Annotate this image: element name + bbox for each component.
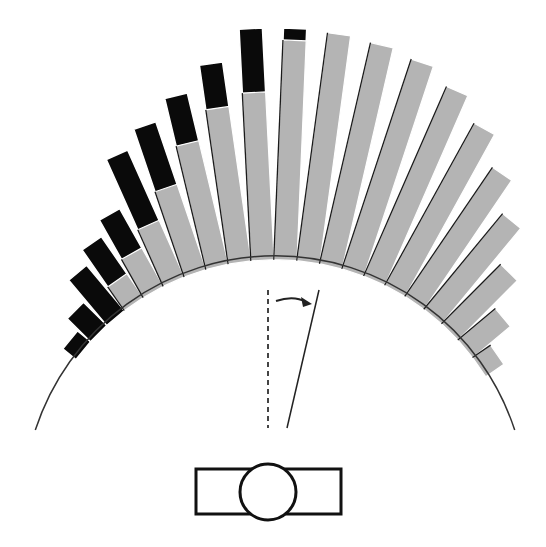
arrow-head-icon bbox=[301, 297, 312, 307]
polar-histogram-chart bbox=[0, 0, 546, 547]
series-gray-bars bbox=[108, 33, 521, 377]
tilted-stimulus-line bbox=[287, 290, 319, 428]
observer-head-icon bbox=[196, 464, 341, 520]
